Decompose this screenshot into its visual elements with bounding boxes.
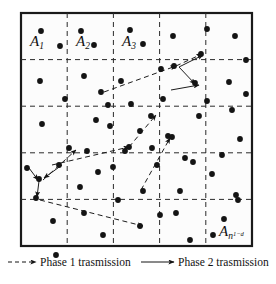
node-dot bbox=[192, 80, 198, 86]
node-dot bbox=[98, 89, 104, 95]
node-dot bbox=[196, 113, 202, 119]
node-dot bbox=[171, 63, 177, 69]
node-dot bbox=[229, 107, 235, 113]
node-dot bbox=[237, 136, 243, 142]
node-dot bbox=[110, 164, 116, 170]
node-dot bbox=[204, 26, 210, 32]
node-dot bbox=[219, 152, 225, 158]
node-dot bbox=[105, 102, 111, 108]
node-dot bbox=[198, 51, 204, 57]
legend-label-phase-1: Phase 1 trasmission bbox=[40, 256, 131, 268]
grid-frame bbox=[21, 13, 252, 246]
node-dot bbox=[160, 96, 166, 102]
node-dot bbox=[140, 41, 146, 47]
node-dot bbox=[115, 197, 121, 203]
node-dot bbox=[107, 123, 113, 129]
node-dot bbox=[81, 210, 87, 216]
transmission-grid-figure: A1A2A3An1−dPhase 1 trasmissionPhase 2 tr… bbox=[0, 0, 276, 284]
node-dot bbox=[84, 148, 90, 154]
node-dot bbox=[210, 232, 216, 238]
node-dot bbox=[33, 195, 39, 201]
node-dot bbox=[243, 91, 249, 97]
node-dot bbox=[177, 188, 183, 194]
node-dot bbox=[93, 117, 99, 123]
node-dot bbox=[190, 159, 196, 165]
node-dot bbox=[140, 188, 146, 194]
node-dot bbox=[56, 162, 62, 168]
node-dot bbox=[100, 232, 106, 238]
node-dot bbox=[81, 73, 87, 79]
node-dot bbox=[62, 96, 68, 102]
node-dot bbox=[170, 33, 176, 39]
node-dot bbox=[24, 165, 30, 171]
node-dot bbox=[118, 78, 124, 84]
node-dot bbox=[37, 78, 43, 84]
node-dot bbox=[232, 33, 238, 39]
node-dot bbox=[204, 98, 210, 104]
node-dot bbox=[154, 162, 160, 168]
node-dot bbox=[221, 216, 227, 222]
node-dot bbox=[91, 42, 97, 48]
node-dot bbox=[39, 121, 45, 127]
node-dot bbox=[137, 223, 143, 229]
node-dot bbox=[149, 145, 155, 151]
node-dot bbox=[66, 145, 72, 151]
node-dot bbox=[165, 133, 171, 139]
node-dot bbox=[50, 218, 56, 224]
node-dot bbox=[128, 101, 134, 107]
node-dot bbox=[173, 210, 179, 216]
node-dot bbox=[57, 43, 63, 49]
node-dot bbox=[243, 57, 249, 63]
node-dot bbox=[95, 169, 101, 175]
node-dot bbox=[226, 79, 232, 85]
node-dot bbox=[209, 171, 215, 177]
node-dot bbox=[157, 212, 163, 218]
node-dot bbox=[187, 237, 193, 243]
node-dot bbox=[122, 148, 128, 154]
node-dot bbox=[158, 66, 164, 72]
legend-label-phase-2: Phase 2 trasmission bbox=[178, 256, 269, 268]
node-dot bbox=[77, 184, 83, 190]
legend: Phase 1 trasmissionPhase 2 trasmission bbox=[8, 256, 269, 268]
node-dot bbox=[235, 197, 241, 203]
node-dot bbox=[182, 155, 188, 161]
node-dot bbox=[148, 113, 154, 119]
node-dot bbox=[36, 176, 42, 182]
node-dot bbox=[233, 192, 239, 198]
node-dot bbox=[137, 128, 143, 134]
